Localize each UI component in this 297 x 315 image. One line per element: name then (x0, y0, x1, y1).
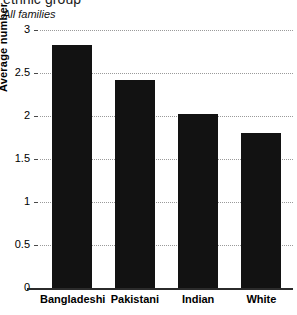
y-axis-title: Average number of children (0, 0, 9, 92)
bar (178, 114, 218, 288)
y-tick-mark (34, 245, 38, 246)
bar (241, 133, 281, 288)
y-tick-mark (34, 159, 38, 160)
bar-chart: ethnic group All families Average number… (0, 0, 297, 315)
chart-subtitle: All families (3, 8, 56, 21)
y-tick-mark (34, 73, 38, 74)
y-tick-label: 2.5 (0, 67, 30, 78)
y-tick-label: 0 (0, 282, 30, 293)
gridline (40, 30, 293, 31)
y-tick-label: 1.5 (0, 153, 30, 164)
y-tick-label: 3 (0, 24, 30, 35)
bar (115, 80, 155, 288)
x-tick-label: Indian (167, 293, 230, 306)
plot-area (40, 30, 293, 288)
chart-title: ethnic group (3, 0, 81, 7)
y-tick-label: 2 (0, 110, 30, 121)
bar (52, 45, 92, 288)
x-tick-label: Bangladeshi (40, 293, 103, 306)
y-tick-label: 0.5 (0, 239, 30, 250)
y-tick-mark (34, 30, 38, 31)
y-tick-label: 1 (0, 196, 30, 207)
y-tick-mark (34, 116, 38, 117)
x-tick-label: Pakistani (103, 293, 166, 306)
x-axis-line (27, 288, 293, 290)
y-tick-mark (34, 202, 38, 203)
x-tick-label: White (230, 293, 293, 306)
